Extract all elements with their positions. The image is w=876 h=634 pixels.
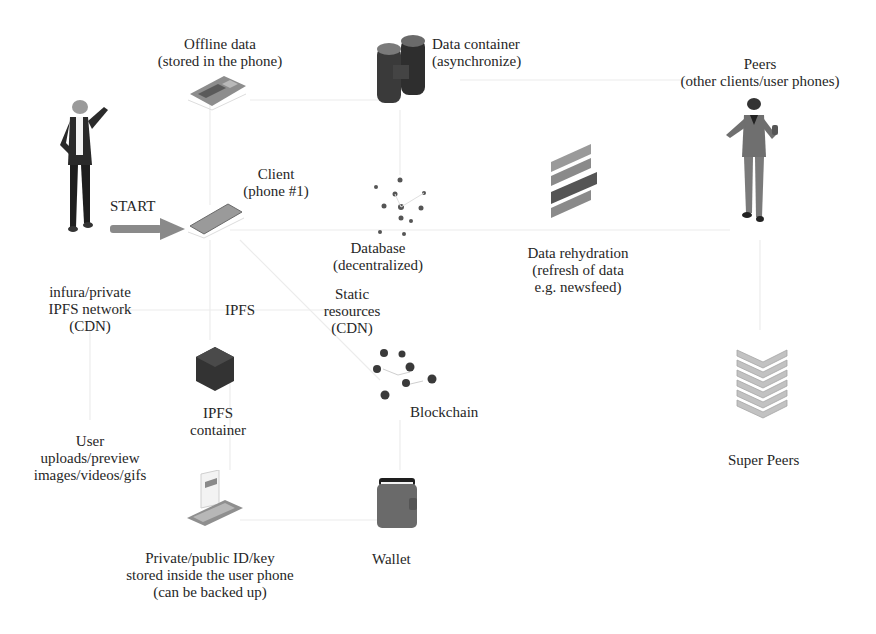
wallet-icon [373,472,425,532]
label-static-resources: Static resources (CDN) [312,286,392,337]
label-offline-data: Offline data (stored in the phone) [145,36,295,70]
blockchain-icon [368,345,443,405]
label-private-key: Private/public ID/key stored inside the … [100,550,320,601]
label-ipfs-container: IPFS container [178,405,258,439]
label-start: START [110,198,155,215]
label-user-uploads: User uploads/preview images/videos/gifs [20,433,160,484]
data-container-icon [373,35,431,107]
label-super-peers: Super Peers [728,452,799,469]
cube-icon [192,345,238,397]
network-nodes-icon [362,172,438,238]
label-data-container: Data container (asynchronize) [432,36,521,70]
label-database: Database (decentralized) [318,240,438,274]
label-data-rehydration: Data rehydration (refresh of data e.g. n… [508,245,648,296]
circuit-board-icon [188,72,248,112]
label-peers: Peers (other clients/user phones) [660,56,860,90]
phone-card-icon [185,470,247,530]
peer-person-icon [722,95,786,225]
phone-icon [188,200,246,240]
server-stack-icon [735,348,791,420]
label-client: Client (phone #1) [236,166,316,200]
label-wallet: Wallet [372,551,411,568]
stacked-layers-icon [545,140,605,230]
label-ipfs: IPFS [225,302,255,319]
label-blockchain: Blockchain [410,404,478,421]
label-infura-ipfs-network: infura/private IPFS network (CDN) [25,284,155,335]
start-arrow-icon [110,218,185,240]
user-person-icon [48,95,118,235]
